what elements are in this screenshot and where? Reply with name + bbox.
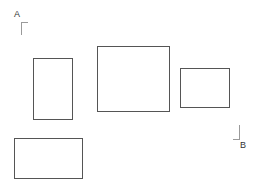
corner-a-horizontal-line	[21, 22, 28, 23]
corner-label-b: B	[240, 141, 246, 150]
corner-a-vertical-line	[21, 22, 22, 35]
corner-label-a: A	[14, 10, 20, 19]
rectangle-1	[33, 58, 73, 120]
rectangle-2	[97, 46, 170, 112]
diagram-canvas: A B	[0, 0, 256, 182]
rectangle-3	[180, 68, 230, 108]
rectangle-4	[14, 138, 83, 179]
corner-b-horizontal-line	[233, 139, 240, 140]
corner-b-vertical-line	[239, 125, 240, 140]
